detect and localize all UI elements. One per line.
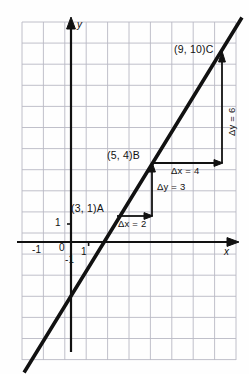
delta-y-label-ab: Δy = 3 [157,182,185,192]
delta-y-label-bc: Δy = 6 [227,108,237,136]
point-label-a: (3, 1)A [71,203,104,214]
x-axis-tick-label-positive: 1 [81,247,87,257]
plotted-line [25,19,241,371]
y-axis-arrowhead [67,17,76,29]
y-axis-label: y [77,20,82,30]
point-label-b: (5, 4)B [107,150,140,161]
x-axis-label: x [224,247,229,257]
grid-lines [22,22,236,360]
x-axis-tick-label-negative: -1 [32,245,41,255]
y-axis-tick-label-negative: -1 [65,255,74,265]
slope-graph-figure: y x 0 1 -1 1 -1 (3, 1)A (5, 4)B (9, 10)C… [0,0,249,374]
y-axis-tick-label-positive: 1 [55,218,61,228]
point-label-c: (9, 10)C [174,44,214,55]
graph-canvas [0,0,249,374]
origin-tick-label: 0 [59,243,65,253]
delta-x-label-ab: Δx = 2 [118,219,146,229]
axes-group [17,17,239,352]
delta-x-label-bc: Δx = 4 [171,166,199,176]
